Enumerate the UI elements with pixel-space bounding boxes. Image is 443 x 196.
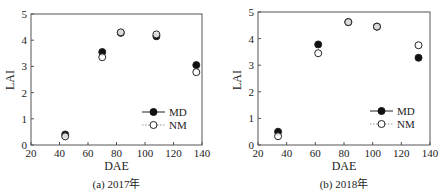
x-tick-label: 100	[137, 147, 154, 159]
legend-md-label: MD	[397, 105, 415, 117]
x-tick-label: 20	[253, 147, 265, 159]
y-tick-label: 3	[249, 59, 255, 71]
point-nm	[153, 31, 160, 38]
x-tick-label: 40	[54, 147, 66, 159]
x-tick-label: 120	[393, 147, 410, 159]
x-tick-label: 20	[26, 147, 38, 159]
legend-nm-marker	[150, 122, 157, 129]
point-md	[315, 41, 322, 48]
legend-nm-marker	[378, 121, 385, 128]
point-nm	[62, 133, 69, 140]
x-axis-label: DAE	[104, 159, 129, 173]
point-md	[415, 54, 422, 61]
x-tick-label: 80	[339, 147, 351, 159]
y-tick-label: 2	[22, 87, 28, 99]
point-nm	[415, 42, 422, 49]
x-tick-label: 100	[364, 147, 381, 159]
legend-md-marker	[378, 108, 385, 115]
point-nm	[373, 23, 380, 30]
x-tick-label: 40	[281, 147, 293, 159]
y-tick-label: 2	[249, 86, 255, 98]
y-axis-label: LAI	[3, 70, 17, 90]
point-nm	[345, 19, 352, 26]
legend: MD NM	[370, 105, 415, 130]
y-tick-label: 4	[22, 34, 28, 46]
x-tick-label: 60	[83, 147, 95, 159]
y-ticks: 012345	[22, 8, 35, 151]
y-tick-label: 3	[22, 60, 28, 72]
y-ticks: 012345	[249, 6, 262, 151]
figure: 012345 20406080100120140 LAI DAE (a) 201…	[0, 0, 443, 196]
legend: MD NM	[142, 106, 187, 131]
x-tick-label: 120	[165, 147, 182, 159]
y-tick-label: 5	[249, 6, 255, 18]
x-axis-label: DAE	[332, 159, 357, 173]
x-tick-label: 140	[194, 147, 211, 159]
y-tick-label: 1	[22, 113, 28, 125]
legend-md-label: MD	[169, 106, 187, 118]
x-tick-label: 60	[310, 147, 322, 159]
legend-nm-label: NM	[169, 119, 187, 131]
y-tick-label: 5	[22, 8, 28, 20]
point-nm	[315, 50, 322, 57]
point-nm	[117, 29, 124, 36]
point-md	[193, 62, 200, 69]
point-nm	[99, 54, 106, 61]
legend-md-marker	[150, 109, 157, 116]
point-nm	[193, 69, 200, 76]
x-tick-label: 140	[422, 147, 439, 159]
chart-panel-2018: 012345 20406080100120140 LAI DAE (b) 201…	[230, 6, 439, 191]
x-tick-label: 80	[111, 147, 123, 159]
y-tick-label: 1	[249, 112, 255, 124]
panel-caption: (a) 2017年	[93, 177, 141, 191]
panel-caption: (b) 2018年	[320, 177, 369, 191]
y-tick-label: 4	[249, 33, 255, 45]
point-nm	[275, 133, 282, 140]
chart-panel-2017: 012345 20406080100120140 LAI DAE (a) 201…	[3, 8, 211, 191]
legend-nm-label: NM	[397, 118, 415, 130]
y-axis-label: LAI	[230, 70, 244, 90]
